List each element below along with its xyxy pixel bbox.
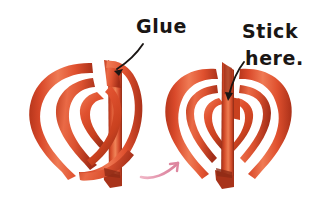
progress-arrow [141,163,178,178]
paper-heart-diagram: Glue Stick here. [0,0,311,202]
progress-arrow-shaft [141,163,178,178]
step-2-finished-heart [165,62,291,189]
illustration-canvas: Glue Stick here. [0,0,311,202]
glue-arrow-shaft [117,44,143,69]
paper-strip-inner-right-2 [239,85,271,163]
paper-strip-inner-left-2 [186,85,218,163]
stick-here-label-line1: Stick [242,20,298,42]
glue-label: Glue [136,15,187,37]
step-1-unfinished-heart [29,60,142,188]
stick-here-label-line2: here. [245,47,304,69]
stick-here-annotation: Stick here. [225,20,304,101]
paper-strip-curl-left-1 [80,92,108,151]
